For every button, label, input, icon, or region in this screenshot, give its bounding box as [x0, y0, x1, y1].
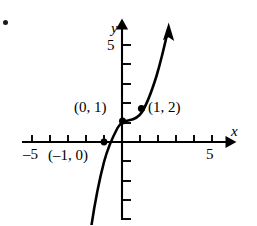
x-axis-label: x — [231, 124, 238, 139]
y-axis-label: y — [111, 21, 118, 36]
x-axis — [22, 135, 228, 142]
x-tick-label-5: 5 — [206, 147, 214, 162]
point-label-0-1: (0, 1) — [74, 100, 107, 115]
point-marker-neg1-0 — [101, 139, 108, 146]
curve-arrow-up-icon — [163, 23, 174, 42]
graph-figure: y x 5 –5 5 (0, 1) (1, 2) (–1, 0) — [0, 0, 257, 225]
point-marker-0-1 — [119, 118, 126, 125]
x-tick-label-neg5: –5 — [23, 147, 38, 162]
y-tick-label-5: 5 — [107, 38, 115, 53]
point-marker-1-2 — [138, 105, 145, 112]
point-label-neg1-0: (–1, 0) — [48, 148, 88, 163]
y-axis-ticks — [122, 45, 131, 219]
cubic-curve — [89, 23, 175, 226]
coordinate-plane — [0, 0, 257, 225]
point-label-1-2: (1, 2) — [148, 100, 181, 115]
curve-path — [89, 28, 169, 225]
